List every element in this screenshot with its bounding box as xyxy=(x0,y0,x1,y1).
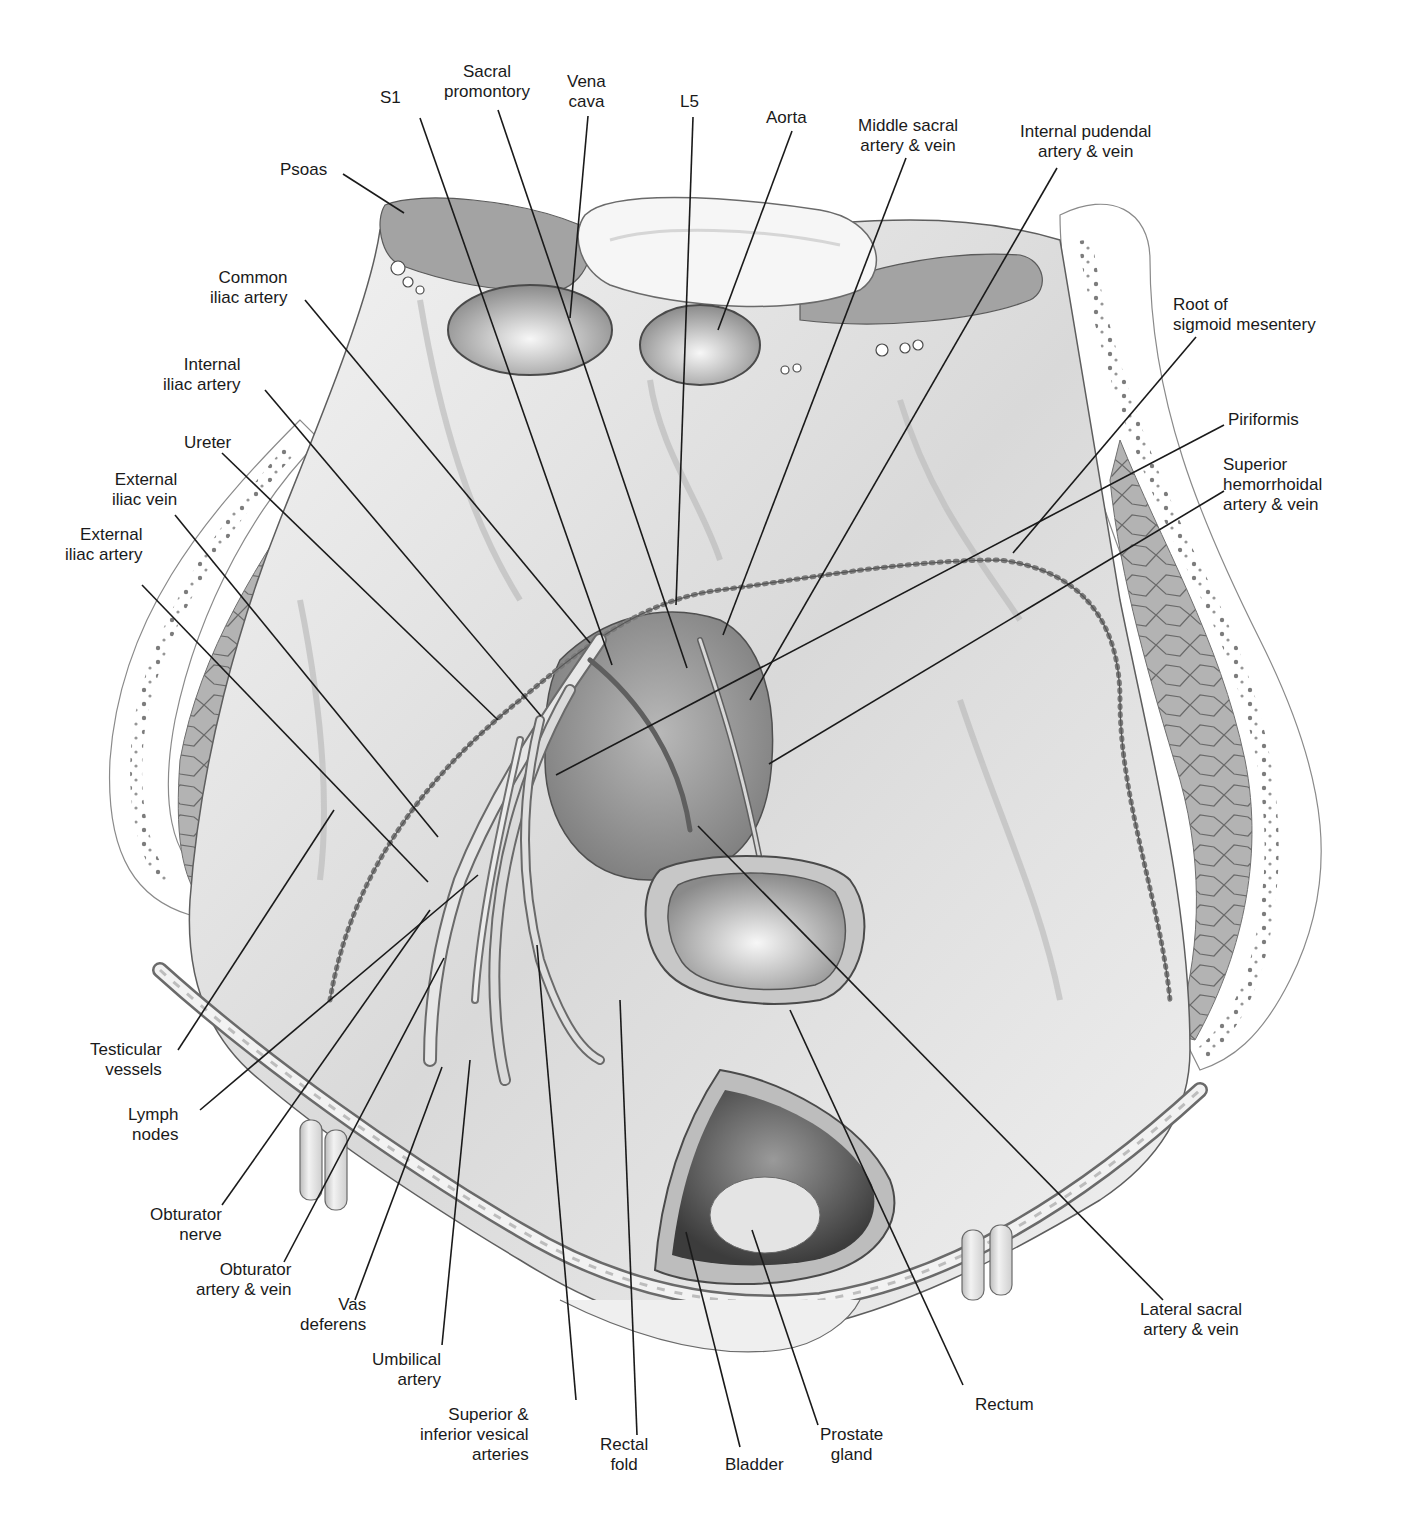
label-line: Aorta xyxy=(766,108,807,128)
label-line: Bladder xyxy=(725,1455,784,1475)
label-line: Ureter xyxy=(184,433,231,453)
label-line: vessels xyxy=(90,1060,162,1080)
label-ext-iliac-artery: Externaliliac artery xyxy=(65,525,142,565)
label-umbilical: Umbilicalartery xyxy=(372,1350,441,1390)
label-sacral-promontory: Sacralpromontory xyxy=(444,62,530,102)
label-lymph: Lymphnodes xyxy=(128,1105,178,1145)
label-line: Superior xyxy=(1223,455,1322,475)
leader-line-ext-iliac-artery xyxy=(142,585,428,882)
leader-line-prostate xyxy=(752,1230,818,1425)
label-line: Internal pudendal xyxy=(1020,122,1151,142)
label-internal-iliac: Internaliliac artery xyxy=(163,355,240,395)
label-line: Lymph xyxy=(128,1105,178,1125)
label-line: iliac artery xyxy=(163,375,240,395)
label-line: Obturator xyxy=(196,1260,291,1280)
pelvic-anatomy-diagram: S1SacralpromontoryVenacavaL5AortaMiddle … xyxy=(0,0,1424,1539)
leader-line-lateral-sacral xyxy=(698,826,1163,1300)
label-lateral-sacral: Lateral sacralartery & vein xyxy=(1140,1300,1242,1340)
leader-line-vena-cava xyxy=(570,116,588,318)
leader-line-piriformis xyxy=(556,425,1224,775)
label-line: Internal xyxy=(163,355,240,375)
leader-line-middle-sacral xyxy=(723,158,906,635)
label-line: External xyxy=(65,525,142,545)
label-line: Rectal xyxy=(600,1435,648,1455)
label-line: inferior vesical xyxy=(420,1425,529,1445)
label-line: iliac artery xyxy=(210,288,287,308)
leader-line-rectal-fold xyxy=(620,1000,637,1435)
label-line: cava xyxy=(567,92,606,112)
label-vesical: Superior &inferior vesicalarteries xyxy=(420,1405,529,1465)
label-line: Lateral sacral xyxy=(1140,1300,1242,1320)
label-line: nerve xyxy=(150,1225,222,1245)
label-root-sigmoid: Root ofsigmoid mesentery xyxy=(1173,295,1316,335)
leader-line-obturator-nerve xyxy=(222,910,430,1205)
label-rectal-fold: Rectalfold xyxy=(600,1435,648,1475)
label-line: Middle sacral xyxy=(858,116,958,136)
label-line: Rectum xyxy=(975,1395,1034,1415)
leader-line-umbilical xyxy=(442,1060,470,1345)
leader-line-common-iliac xyxy=(305,300,590,643)
label-line: sigmoid mesentery xyxy=(1173,315,1316,335)
label-line: Umbilical xyxy=(372,1350,441,1370)
label-line: Piriformis xyxy=(1228,410,1299,430)
label-internal-pudendal: Internal pudendalartery & vein xyxy=(1020,122,1151,162)
label-obturator-artery: Obturatorartery & vein xyxy=(196,1260,291,1300)
label-line: Sacral xyxy=(444,62,530,82)
label-line: deferens xyxy=(300,1315,366,1335)
leader-line-aorta xyxy=(718,131,792,330)
leader-line-ureter xyxy=(222,453,498,720)
label-line: artery & vein xyxy=(858,136,958,156)
label-line: gland xyxy=(820,1445,883,1465)
label-sup-hemorrhoidal: Superiorhemorrhoidalartery & vein xyxy=(1223,455,1322,515)
label-line: arteries xyxy=(420,1445,529,1465)
label-rectum: Rectum xyxy=(975,1395,1034,1415)
label-middle-sacral: Middle sacralartery & vein xyxy=(858,116,958,156)
leader-line-internal-iliac xyxy=(265,390,541,716)
leader-line-internal-pudendal xyxy=(750,168,1057,700)
label-line: Prostate xyxy=(820,1425,883,1445)
label-line: artery & vein xyxy=(1020,142,1151,162)
label-s1: S1 xyxy=(380,88,401,108)
label-common-iliac: Commoniliac artery xyxy=(210,268,287,308)
label-line: artery & vein xyxy=(1140,1320,1242,1340)
label-aorta: Aorta xyxy=(766,108,807,128)
label-line: Superior & xyxy=(420,1405,529,1425)
label-line: Vena xyxy=(567,72,606,92)
label-line: hemorrhoidal xyxy=(1223,475,1322,495)
label-line: artery xyxy=(372,1370,441,1390)
leader-line-rectum xyxy=(790,1010,963,1385)
leader-line-vesical xyxy=(537,945,576,1400)
label-line: L5 xyxy=(680,92,699,112)
label-line: promontory xyxy=(444,82,530,102)
label-line: artery & vein xyxy=(196,1280,291,1300)
label-vas-deferens: Vasdeferens xyxy=(300,1295,366,1335)
leader-line-l5 xyxy=(676,117,693,605)
label-line: iliac vein xyxy=(112,490,177,510)
label-line: artery & vein xyxy=(1223,495,1322,515)
label-line: Obturator xyxy=(150,1205,222,1225)
leader-line-sacral-promontory xyxy=(498,110,687,668)
label-obturator-nerve: Obturatornerve xyxy=(150,1205,222,1245)
label-l5: L5 xyxy=(680,92,699,112)
label-line: fold xyxy=(600,1455,648,1475)
label-line: iliac artery xyxy=(65,545,142,565)
leader-line-bladder xyxy=(686,1232,740,1447)
label-ureter: Ureter xyxy=(184,433,231,453)
label-line: Common xyxy=(210,268,287,288)
label-psoas: Psoas xyxy=(280,160,327,180)
label-line: Testicular xyxy=(90,1040,162,1060)
label-line: Psoas xyxy=(280,160,327,180)
leader-line-lymph xyxy=(200,875,478,1110)
leader-line-s1 xyxy=(420,118,612,665)
leader-line-ext-iliac-vein xyxy=(175,515,438,837)
label-line: S1 xyxy=(380,88,401,108)
label-testicular: Testicularvessels xyxy=(90,1040,162,1080)
leader-line-psoas xyxy=(343,174,404,213)
label-line: Vas xyxy=(300,1295,366,1315)
label-piriformis: Piriformis xyxy=(1228,410,1299,430)
label-ext-iliac-vein: Externaliliac vein xyxy=(112,470,177,510)
label-line: Root of xyxy=(1173,295,1316,315)
label-line: nodes xyxy=(128,1125,178,1145)
label-bladder: Bladder xyxy=(725,1455,784,1475)
label-vena-cava: Venacava xyxy=(567,72,606,112)
